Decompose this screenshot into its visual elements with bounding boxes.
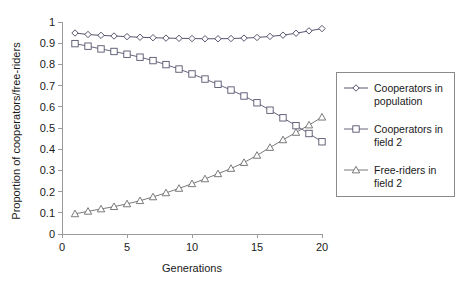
x-tick-label: 0 <box>59 241 65 253</box>
legend-label-line1: Cooperators in <box>374 123 443 135</box>
data-point-square <box>150 57 156 63</box>
y-tick-label: 0.6 <box>40 101 55 113</box>
data-point-square <box>202 76 208 82</box>
y-tick-label: 0.5 <box>40 122 55 134</box>
x-tick-label: 10 <box>186 241 198 253</box>
data-point-square <box>176 66 182 72</box>
legend-label-line2: field 2 <box>374 136 402 148</box>
data-point-square <box>241 93 247 99</box>
data-point-square <box>98 46 104 52</box>
data-point-square <box>319 139 325 145</box>
data-point-square <box>306 130 312 136</box>
y-tick-label: 0.1 <box>40 207 55 219</box>
chart-figure: Proportion of cooperators/free-riders Ge… <box>0 0 459 282</box>
data-point-square <box>228 87 234 93</box>
y-tick-label: 0.7 <box>40 80 55 92</box>
data-point-square <box>280 115 286 121</box>
y-tick-label: 0.4 <box>40 143 55 155</box>
y-tick-label: 0.8 <box>40 58 55 70</box>
data-point-square <box>215 81 221 87</box>
x-tick-label: 15 <box>251 241 263 253</box>
data-point-square <box>111 48 117 54</box>
data-point-square <box>163 61 169 67</box>
data-point-square <box>267 107 273 113</box>
legend-marker-square-icon <box>353 126 359 132</box>
data-point-square <box>72 40 78 46</box>
legend-label-line2: field 2 <box>374 177 402 189</box>
x-tick-label: 20 <box>316 241 328 253</box>
data-point-square <box>254 100 260 106</box>
line-chart: Proportion of cooperators/free-riders Ge… <box>0 0 459 282</box>
y-tick-label: 0 <box>49 228 55 240</box>
legend-label-line2: population <box>374 95 423 107</box>
y-tick-label: 0.9 <box>40 37 55 49</box>
x-axis-title: Generations <box>162 262 222 274</box>
legend-label-line1: Free-riders in <box>374 164 437 176</box>
y-tick-label: 1 <box>49 16 55 28</box>
legend-group: Cooperators inpopulationCooperators infi… <box>336 72 454 196</box>
data-point-square <box>124 51 130 57</box>
legend-label-line1: Cooperators in <box>374 82 443 94</box>
y-tick-label: 0.3 <box>40 164 55 176</box>
data-point-square <box>137 54 143 60</box>
data-point-square <box>85 43 91 49</box>
x-tick-label: 5 <box>124 241 130 253</box>
data-point-square <box>189 71 195 77</box>
y-axis-title: Proportion of cooperators/free-riders <box>10 42 22 220</box>
y-tick-label: 0.2 <box>40 186 55 198</box>
